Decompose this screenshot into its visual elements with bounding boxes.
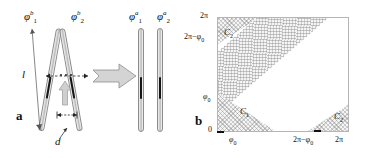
y-tick-2pimphi0-sub: 0 xyxy=(201,37,204,43)
length-label-l: l xyxy=(22,68,25,80)
y-tick-2pi-text: 2π xyxy=(200,11,208,20)
phi-1-b-sub: 1 xyxy=(34,17,38,25)
phi-2-a-sup: a xyxy=(163,9,167,17)
dot-1 xyxy=(60,74,62,76)
phi-1-a-sup: a xyxy=(135,9,139,17)
phi-2-a-sub: 2 xyxy=(167,17,171,25)
x-tick-label-phi0: φ0 xyxy=(229,135,236,146)
region-label-c2-top: C2 xyxy=(224,27,233,39)
y-tick-phi0-sub: 0 xyxy=(207,97,210,103)
rod-2-after-mark xyxy=(159,77,161,99)
x-tick-label-2pi: 2π xyxy=(335,135,343,144)
label-phi-1-a: φa1 xyxy=(129,9,142,25)
c1-sub: 1 xyxy=(246,112,249,118)
label-phi-1-b: φb1 xyxy=(24,9,37,25)
phase-diagram-plot-area: C1 C2 C2 xyxy=(217,17,349,132)
y-tickmark-zero xyxy=(217,131,224,133)
y-tick-label-2pi: 2π xyxy=(200,11,208,20)
rod-1-after xyxy=(138,28,144,132)
phi-2-b-sub: 2 xyxy=(81,17,85,25)
up-arrow-icon xyxy=(58,80,72,106)
rod-1-after-mark xyxy=(140,77,142,99)
x-tick-2pimphi0-sub: 0 xyxy=(310,140,313,146)
phi-1-a-sub: 1 xyxy=(139,17,143,25)
y-tick-2pimphi0-text: 2π−φ xyxy=(184,32,201,41)
figure-root: a φb1 φb2 φa1 φa2 l xyxy=(0,0,365,158)
x-tick-2pi-text: 2π xyxy=(335,135,343,144)
y-tick-label-phi0: φ0 xyxy=(203,92,210,103)
ellipsis-dots xyxy=(60,74,72,76)
x-tickmark-2pi-minus-phi0 xyxy=(314,130,321,132)
dot-2 xyxy=(65,74,67,76)
length-indicator xyxy=(18,26,58,134)
distance-label-d: d xyxy=(55,135,61,147)
c2-bottom-sub: 2 xyxy=(340,117,343,123)
y-tick-label-zero: 0 xyxy=(208,125,212,134)
region-label-c1: C1 xyxy=(240,106,249,118)
separation-dimension-marker xyxy=(55,110,79,120)
rod-2-after xyxy=(157,28,163,132)
panel-b: b C1 C2 C2 2π xyxy=(183,0,365,158)
x-tick-label-2pi-minus-phi0: 2π−φ0 xyxy=(293,135,313,146)
y-tick-label-2pi-minus-phi0: 2π−φ0 xyxy=(184,32,204,43)
c2-top-sub: 2 xyxy=(230,33,233,39)
transition-arrow-icon xyxy=(93,62,137,90)
phi-2-b-sup: b xyxy=(77,9,81,17)
x-tick-2pimphi0-text: 2π−φ xyxy=(293,135,310,144)
panel-a: a φb1 φb2 φa1 φa2 l xyxy=(0,0,183,158)
dot-3 xyxy=(70,74,72,76)
x-tick-phi0-sub: 0 xyxy=(233,140,236,146)
label-phi-2-b: φb2 xyxy=(71,9,84,25)
panel-b-letter: b xyxy=(195,113,202,129)
region-label-c2-bottom: C2 xyxy=(334,111,343,123)
phi-1-b-sup: b xyxy=(30,9,34,17)
y-tick-zero-text: 0 xyxy=(208,125,212,134)
label-phi-2-a: φa2 xyxy=(157,9,170,25)
